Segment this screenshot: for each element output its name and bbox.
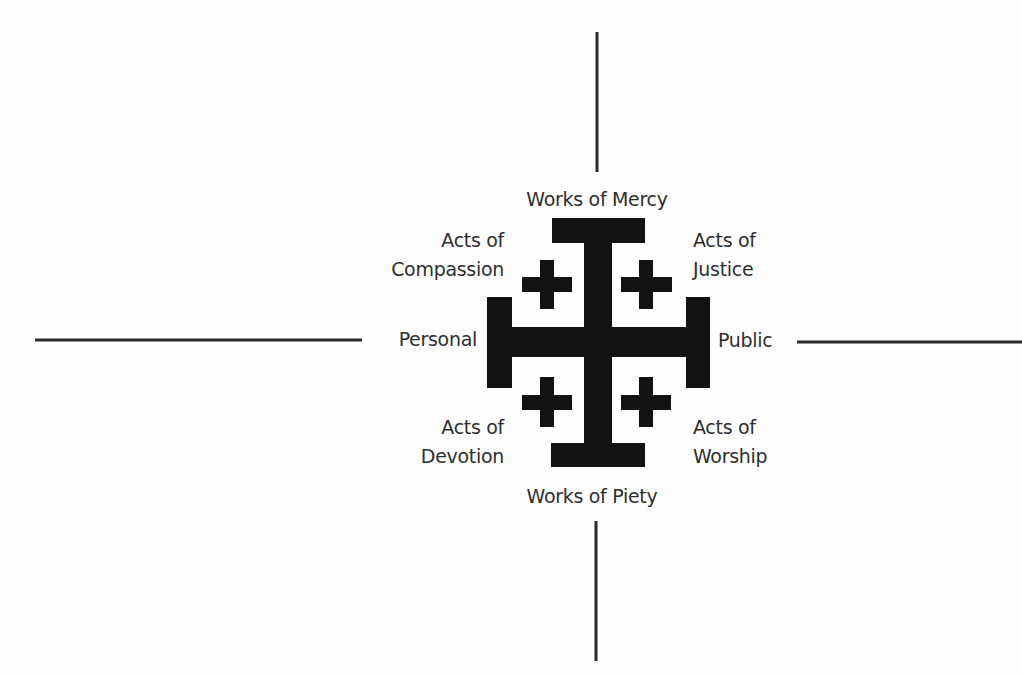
label-acts-of-worship: Acts of Worship xyxy=(693,413,853,471)
small-cross-bottom-left-icon xyxy=(522,377,572,427)
label-acts-of-devotion: Acts of Devotion xyxy=(344,413,504,471)
label-line: Compassion xyxy=(344,255,504,284)
label-public: Public xyxy=(718,326,818,355)
label-acts-of-justice: Acts of Justice xyxy=(693,226,853,284)
small-cross-top-left-icon xyxy=(522,260,572,309)
jerusalem-cross-diagram: Works of Mercy Works of Piety Personal P… xyxy=(0,0,1022,676)
label-line: Worship xyxy=(693,442,853,471)
label-works-of-mercy: Works of Mercy xyxy=(497,185,697,214)
label-personal: Personal xyxy=(337,325,477,354)
small-cross-bottom-right-icon xyxy=(621,377,671,427)
label-line: Devotion xyxy=(344,442,504,471)
small-cross-top-right-icon xyxy=(621,260,672,309)
label-line: Acts of xyxy=(344,413,504,442)
label-line: Acts of xyxy=(693,413,853,442)
label-line: Acts of xyxy=(344,226,504,255)
label-works-of-piety: Works of Piety xyxy=(492,482,692,511)
label-line: Acts of xyxy=(693,226,853,255)
jerusalem-cross-icon xyxy=(487,218,710,467)
label-acts-of-compassion: Acts of Compassion xyxy=(344,226,504,284)
label-line: Justice xyxy=(693,255,853,284)
diagram-graphics xyxy=(0,0,1022,676)
